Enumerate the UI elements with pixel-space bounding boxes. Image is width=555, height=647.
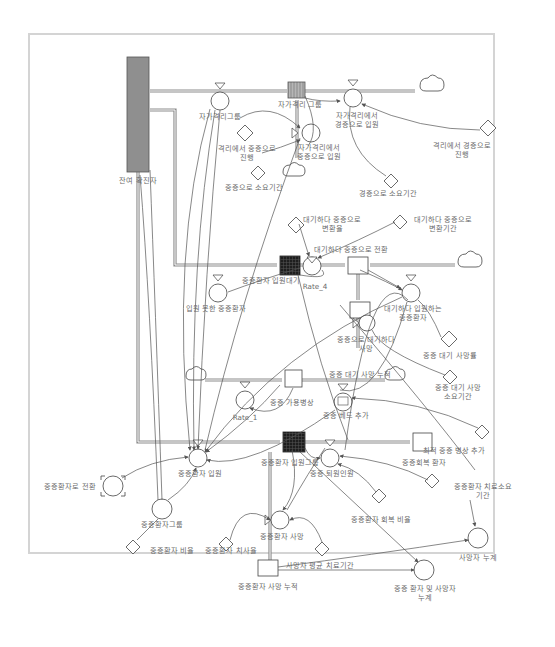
label-waiting-to-severe-transition: 대기하다 중증으로 전환 — [314, 245, 389, 254]
label-self-iso-to-mild-2: 경증으로 입원 — [335, 120, 379, 129]
label-severe-duration: 중증으로 소요기간 — [225, 183, 283, 192]
label-waiting-severe-period-1: 대기하다 중증으로 — [414, 215, 472, 224]
cloud-icon — [283, 163, 305, 177]
label-severe-admission: 중증환자 입원 — [178, 469, 222, 478]
label-severe-group: 중증환자그룹 — [141, 520, 183, 529]
label-severe-and-death-cum-2: 누계 — [418, 593, 432, 602]
cloud-icon — [420, 75, 444, 91]
label-self-iso-to-severe-1: 자가격리에서 — [298, 143, 340, 152]
label-iso-to-mild-2: 진행 — [455, 150, 469, 159]
label-severe-wait-death-2: 사망 — [359, 344, 373, 353]
label-mild-duration: 경증으로 소요기간 — [359, 189, 417, 198]
stocks — [127, 57, 432, 576]
stock-severe-waiting — [280, 256, 300, 275]
label-death-cum: 사망자 누계 — [459, 553, 496, 562]
label-waiting-admitted-severe-1: 대기하다 입원하는 — [384, 304, 442, 313]
label-confirmed-remaining: 잔여 확진자 — [119, 176, 156, 185]
label-severe-recovered: 중증회복 환자 — [402, 458, 446, 467]
stock-severe-beds — [285, 370, 302, 387]
label-severe-discharge: 중증 퇴원인원 — [310, 469, 354, 478]
stock-confirmed-remaining — [127, 57, 149, 172]
label-severe-wait-death-period-1: 중증 대기 사망 — [435, 383, 482, 392]
label-max-severe-bed-add: 최적 중증 병상 추가 — [423, 446, 486, 455]
label-severe-fatality: 중증환자 치사율 — [205, 546, 256, 555]
label-iso-to-severe-2: 진행 — [240, 153, 254, 162]
label-severe-wait-death-1: 중증으로 대기하다 — [337, 335, 395, 344]
stock-waiting-box — [348, 257, 368, 274]
label-severe-beds: 중증 가용병상 — [270, 398, 314, 407]
label-self-isolation-group: 자가격리 그룹 — [278, 100, 322, 109]
label-severe-hospitalized: 중증환자 입원그룹 — [261, 458, 319, 467]
label-rate-1: Rate_1 — [233, 413, 258, 422]
label-waiting-severe-rate-2: 변환율 — [322, 224, 343, 233]
label-iso-to-mild-1: 격리에서 경증으로 — [433, 141, 491, 150]
label-severe-wait-death-cum: 중증 대기 사망 누적 — [329, 370, 392, 379]
stock-severe-death-cum — [258, 560, 278, 576]
label-severe-wait-death-rate: 중증 대기 사망률 — [423, 351, 477, 360]
label-severe-and-death-cum-1: 중증 환자 및 사망자 — [394, 584, 457, 593]
label-self-iso-to-mild-1: 자가격리에서 — [336, 111, 378, 120]
stock-self-isolation-group — [288, 82, 305, 98]
label-death-avg-treatment: 사망자 평균 치료기간 — [286, 561, 354, 570]
label-self-iso-to-severe-2: 중증으로 입원 — [297, 152, 341, 161]
label-severe-death-cum: 중증환자 사망 누적 — [238, 582, 299, 591]
stock-severe-hospitalized — [283, 432, 305, 452]
constants — [126, 120, 496, 556]
label-not-admitted-severe: 입원 못한 중증환자 — [186, 304, 247, 313]
label-self-isolation-flow: 자가격리그룹 — [199, 112, 241, 121]
label-severe-bed-add: 중증 베드 추가 — [323, 411, 370, 420]
stock-flow-diagram: 잔여 확진자 자가격리그룹 자가격리 그룹 자가격리에서 경증으로 입원 자가격… — [0, 0, 555, 647]
label-waiting-admitted-severe-2: 중증환자 — [399, 313, 427, 322]
label-rate-4: Rate_4 — [303, 282, 328, 291]
pipes — [138, 91, 455, 560]
label-severe-recovery-ratio: 중증환자 회복 비율 — [351, 515, 412, 524]
label-iso-to-severe-1: 격리에서 중증으로 — [218, 144, 276, 153]
label-severe-wait-death-period-2: 소요기간 — [444, 392, 472, 401]
cloud-icon — [458, 251, 482, 267]
label-waiting-severe-rate-1: 대기하다 중증으로 — [303, 215, 361, 224]
label-severe-waiting: 중증환자 입원대기 — [242, 276, 300, 285]
label-severe-death: 중증환자 사망 — [260, 532, 304, 541]
label-severe-treatment-period-2: 기간 — [476, 491, 490, 500]
label-to-severe-transition: 중증환자로 전환 — [44, 482, 95, 491]
cloud-icon — [186, 367, 206, 381]
label-waiting-severe-period-2: 변환기간 — [429, 224, 457, 233]
label-severe-ratio: 중증환자 비율 — [150, 546, 194, 555]
label-severe-treatment-period-1: 중증환자 치료소요 — [454, 482, 512, 491]
